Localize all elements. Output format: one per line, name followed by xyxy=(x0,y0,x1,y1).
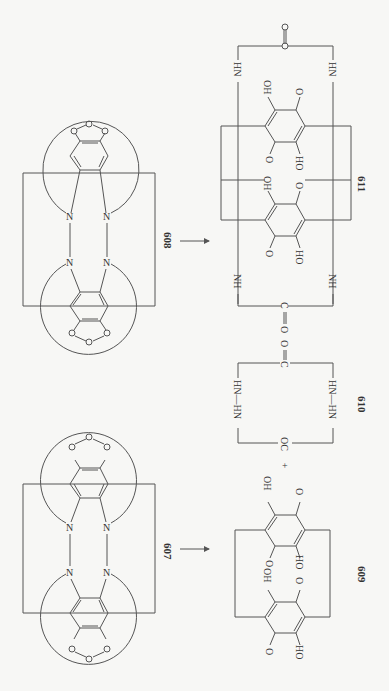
atom-o: O xyxy=(294,182,305,189)
atom-n: N xyxy=(103,211,110,222)
atom-ho: HO xyxy=(294,250,305,264)
atom-hn-hn: HN—HN xyxy=(232,380,243,419)
atom-c: C xyxy=(279,361,290,368)
quinone-ring-lower xyxy=(265,191,305,248)
atom-oh: OH xyxy=(262,80,273,94)
atom-ho: HO xyxy=(294,156,305,170)
atom-n: N xyxy=(103,257,110,268)
atom-o: O xyxy=(294,577,305,584)
compound-611: HN HN OH O O HO OH xyxy=(221,24,351,333)
atom-n: N xyxy=(103,567,110,578)
compound-label-609: 609 xyxy=(356,566,368,583)
reaction-scheme: N N N N 608 xyxy=(0,0,389,691)
bridge-frame xyxy=(23,484,155,613)
atom-o: O xyxy=(264,648,275,655)
atom-oh: OH xyxy=(262,176,273,190)
compound-609: OH O O HO OH O O HO xyxy=(235,476,330,659)
atom-n: N xyxy=(66,257,73,268)
compound-607: N N N N xyxy=(23,433,155,665)
atom-c: C xyxy=(279,302,290,309)
compound-610: O C HN—HN HN—HN OC xyxy=(232,340,338,451)
plus-sign: + xyxy=(282,460,288,471)
catechol-carbonate-unit-top xyxy=(40,433,136,523)
compound-label-611: 611 xyxy=(356,176,368,192)
atom-ho: HO xyxy=(294,645,305,659)
atom-oc: OC xyxy=(279,437,290,451)
atom-o: O xyxy=(264,156,275,163)
compound-label-608: 608 xyxy=(162,232,174,249)
quinone-ring-upper xyxy=(265,502,305,558)
quinone-ring-lower xyxy=(265,590,305,645)
bridge-frame xyxy=(23,173,155,306)
atom-oh: OH xyxy=(262,476,273,490)
atom-ho: HO xyxy=(294,555,305,569)
atom-n: N xyxy=(66,522,73,533)
atom-nh: NH xyxy=(327,274,338,288)
atom-oh: OH xyxy=(262,568,273,582)
compound-608: N N N N xyxy=(23,121,155,354)
atom-o: O xyxy=(294,88,305,95)
atom-nh: NH xyxy=(232,274,243,288)
atom-n: N xyxy=(66,567,73,578)
atom-hn-hn: HN—HN xyxy=(327,380,338,419)
atom-hn: HN xyxy=(327,62,338,76)
compound-label-610: 610 xyxy=(356,396,368,413)
atom-o: O xyxy=(264,250,275,257)
catechol-carbonate-unit-bottom xyxy=(40,264,136,354)
quinone-ring-upper xyxy=(265,97,305,154)
atom-n: N xyxy=(66,211,73,222)
atom-o: O xyxy=(264,560,275,567)
carbonyl-o xyxy=(282,24,288,30)
atom-o: O xyxy=(279,340,290,347)
atom-n: N xyxy=(103,522,110,533)
catechol-carbonate-unit-bottom xyxy=(40,574,136,664)
atom-o: O xyxy=(279,326,290,333)
atom-hn: HN xyxy=(232,62,243,76)
atom-o: O xyxy=(294,488,305,495)
catechol-carbonate-unit-top xyxy=(43,121,139,213)
compound-label-607: 607 xyxy=(162,543,174,560)
